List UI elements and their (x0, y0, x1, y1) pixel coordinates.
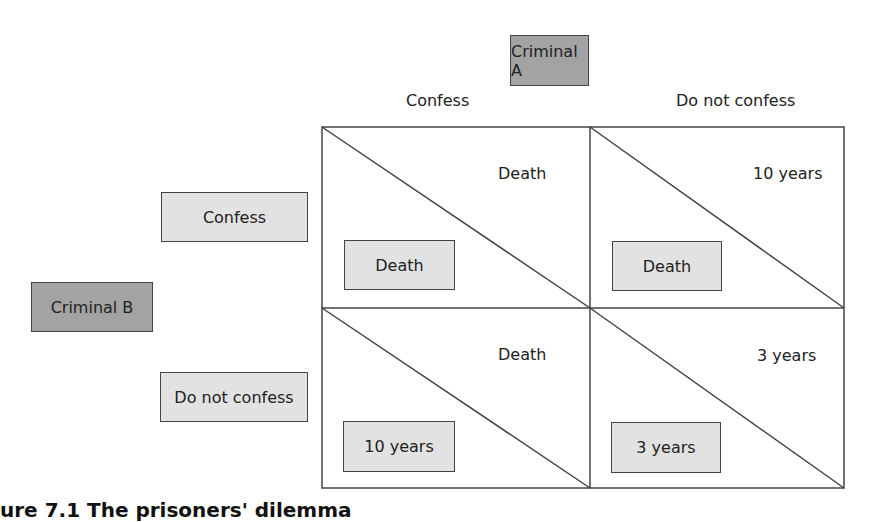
cell-dd-payoff-b-text: 3 years (636, 438, 695, 457)
cell-cc-payoff-b-text: Death (375, 256, 423, 275)
cell-cd-payoff-b: Death (612, 241, 722, 291)
row-strategy-do-not-confess: Do not confess (160, 372, 308, 422)
cell-dd-payoff-a: 3 years (757, 346, 816, 365)
row-player-label: Criminal B (31, 282, 153, 332)
column-strategy-confess: Confess (406, 91, 469, 110)
cell-dd-payoff-b: 3 years (611, 422, 721, 473)
cell-dc-payoff-b: 10 years (343, 421, 455, 472)
column-player-label: Criminal A (510, 35, 589, 86)
row-strategy-confess-text: Confess (203, 208, 266, 227)
row-strategy-confess: Confess (161, 192, 308, 242)
cell-dc-payoff-b-text: 10 years (364, 437, 433, 456)
row-player-text: Criminal B (51, 298, 134, 317)
cell-dc-payoff-a: Death (498, 345, 546, 364)
cell-cd-payoff-b-text: Death (643, 257, 691, 276)
cell-cd-payoff-a: 10 years (753, 164, 822, 183)
column-player-text: Criminal A (511, 42, 588, 80)
cell-cc-payoff-b: Death (344, 240, 455, 290)
cell-cc-payoff-a: Death (498, 164, 546, 183)
row-strategy-do-not-confess-text: Do not confess (174, 388, 293, 407)
column-strategy-do-not-confess: Do not confess (676, 91, 795, 110)
figure-caption: ure 7.1 The prisoners' dilemma (0, 498, 352, 522)
